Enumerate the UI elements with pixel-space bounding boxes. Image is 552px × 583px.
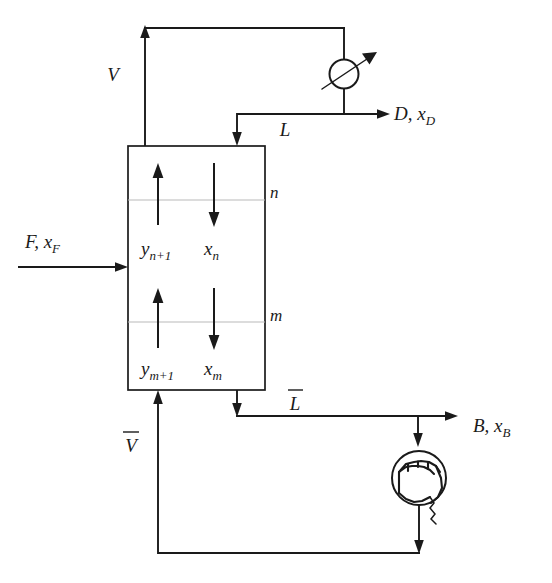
label-stage-n: n xyxy=(270,183,279,202)
label-vapor-m1: y xyxy=(139,358,150,379)
label-feed: F, x xyxy=(24,231,53,252)
label-feed-group: F, xF xyxy=(24,231,61,256)
svg-text:xm: xm xyxy=(203,358,222,383)
label-stage-m: m xyxy=(270,306,282,325)
label-bottoms: B, x xyxy=(473,415,503,436)
feed-line xyxy=(18,262,128,272)
internal-liquid-arrow-n xyxy=(209,163,220,227)
svg-text:B, xB: B, xB xyxy=(473,415,511,440)
label-bottoms-group: B, xB xyxy=(473,415,511,440)
distillation-column-shell xyxy=(128,146,265,390)
svg-text:ym+1: ym+1 xyxy=(139,358,174,383)
label-distillate-sub: D xyxy=(425,113,436,128)
svg-text:D, xD: D, xD xyxy=(393,103,436,128)
label-stripping-liquid-group: L xyxy=(288,390,303,414)
svg-text:xn: xn xyxy=(203,238,219,263)
label-vapor-n1: y xyxy=(139,238,150,259)
internal-liquid-arrow-m xyxy=(209,288,220,350)
svg-text:F, xF: F, xF xyxy=(24,231,61,256)
label-stripping-vapor: V xyxy=(125,435,139,456)
condenser xyxy=(322,52,377,89)
label-vapor-n1-group: yn+1 xyxy=(139,238,171,263)
label-vapor-n1-sub: n+1 xyxy=(149,248,171,263)
label-reflux: L xyxy=(279,119,291,140)
distillation-flowsheet: V L D, xD F, xF B, xB L V xyxy=(0,0,552,583)
label-feed-sub: F xyxy=(51,241,61,256)
label-liquid-m-group: xm xyxy=(203,358,222,383)
label-vapor-m1-group: ym+1 xyxy=(139,358,174,383)
label-liquid-m-sub: m xyxy=(212,368,221,383)
label-liquid-n-group: xn xyxy=(203,238,219,263)
label-liquid-n-sub: n xyxy=(212,248,219,263)
stripping-liquid-line xyxy=(232,390,458,447)
label-stripping-vapor-group: V xyxy=(123,432,139,456)
stripping-vapor-line xyxy=(153,390,424,554)
label-bottoms-sub: B xyxy=(503,425,511,440)
internal-vapor-arrow-m xyxy=(153,288,164,348)
label-distillate: D, x xyxy=(393,103,426,124)
vapor-overhead-line xyxy=(140,25,345,146)
label-distillate-group: D, xD xyxy=(393,103,436,128)
label-stripping-liquid: L xyxy=(289,393,301,414)
distillate-and-reflux-line xyxy=(232,89,390,146)
label-vapor-m1-sub: m+1 xyxy=(149,368,174,383)
label-vapor-overhead: V xyxy=(107,64,121,85)
svg-text:yn+1: yn+1 xyxy=(139,238,171,263)
internal-vapor-arrow-n xyxy=(153,163,164,225)
